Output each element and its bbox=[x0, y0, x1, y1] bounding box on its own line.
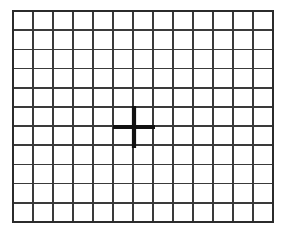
grid-svg bbox=[13, 11, 273, 222]
vertical-grid-lines bbox=[33, 11, 253, 222]
horizontal-grid-lines bbox=[13, 30, 273, 203]
central-fixation-cross bbox=[113, 106, 155, 148]
grid-outer-border bbox=[13, 11, 273, 222]
grid-area bbox=[13, 11, 273, 222]
amsler-grid-chart bbox=[0, 0, 288, 238]
